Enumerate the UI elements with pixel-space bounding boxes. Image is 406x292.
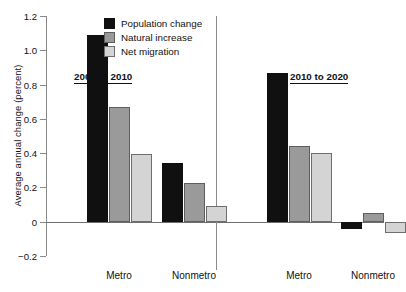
bar bbox=[267, 73, 288, 221]
legend-item-natural-increase: Natural increase bbox=[104, 30, 202, 44]
period-label: 2000 to 2010 bbox=[74, 71, 132, 84]
y-tick-label: 0.2 bbox=[24, 182, 37, 193]
y-tick bbox=[40, 119, 46, 120]
y-tick-label: −0.2 bbox=[18, 251, 37, 262]
y-tick bbox=[40, 85, 46, 86]
bar bbox=[311, 153, 332, 222]
y-tick-label: 0 bbox=[32, 216, 37, 227]
y-tick-label: 0.8 bbox=[24, 79, 37, 90]
plot-area: 1.21.00.80.60.40.20−0.2 MetroNonmetroMet… bbox=[46, 16, 384, 256]
category-label-nonmetro: Nonmetro bbox=[351, 270, 395, 281]
category-label-metro: Metro bbox=[286, 270, 312, 281]
bar bbox=[385, 222, 406, 233]
bar bbox=[162, 163, 183, 221]
y-tick-label: 1.2 bbox=[24, 11, 37, 22]
y-tick bbox=[40, 16, 46, 17]
bar bbox=[289, 146, 310, 221]
panel-divider bbox=[216, 16, 217, 270]
bar bbox=[87, 35, 108, 222]
period-label: 2010 to 2020 bbox=[290, 71, 348, 84]
y-tick-label: 0.4 bbox=[24, 148, 37, 159]
category-label-nonmetro: Nonmetro bbox=[172, 270, 216, 281]
y-tick bbox=[40, 153, 46, 154]
bar bbox=[363, 213, 384, 222]
y-tick bbox=[40, 50, 46, 51]
zero-baseline bbox=[46, 222, 384, 223]
category-label-metro: Metro bbox=[106, 270, 132, 281]
bar bbox=[131, 154, 152, 222]
y-tick-label: 0.6 bbox=[24, 113, 37, 124]
legend-label-population-change: Population change bbox=[121, 18, 202, 29]
legend: Population change Natural increase Net m… bbox=[104, 16, 202, 58]
legend-item-net-migration: Net migration bbox=[104, 44, 202, 58]
legend-swatch-population-change-icon bbox=[104, 18, 115, 29]
y-axis-line bbox=[46, 16, 47, 256]
legend-swatch-natural-increase-icon bbox=[104, 32, 115, 43]
legend-label-natural-increase: Natural increase bbox=[121, 32, 192, 43]
legend-item-population-change: Population change bbox=[104, 16, 202, 30]
legend-label-net-migration: Net migration bbox=[121, 46, 179, 57]
y-tick bbox=[40, 256, 46, 257]
bar bbox=[206, 206, 227, 221]
y-tick bbox=[40, 187, 46, 188]
bar bbox=[109, 107, 130, 222]
legend-swatch-net-migration-icon bbox=[104, 46, 115, 57]
y-tick-label: 1.0 bbox=[24, 45, 37, 56]
bar bbox=[341, 222, 362, 229]
y-axis-label: Average annual change (percent) bbox=[12, 31, 23, 241]
bar bbox=[184, 183, 205, 222]
